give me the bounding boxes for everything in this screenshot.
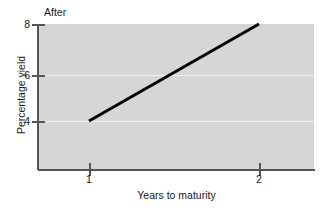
x-axis-spine [38, 169, 315, 171]
gridline-y-4 [38, 121, 314, 122]
x-axis-label: Years to maturity [38, 189, 315, 201]
y-axis-spine [37, 24, 39, 170]
x-tick-label-1: 1 [74, 174, 104, 185]
y-tick-mark-8 [32, 24, 45, 26]
chart-figure: After 8 6 4 1 2 Percentage yield Years t… [0, 0, 331, 210]
plot-area [38, 24, 314, 169]
y-axis-label: Percentage yield [15, 30, 27, 160]
y-tick-label-8: 8 [0, 19, 30, 30]
y-tick-mark-6 [32, 75, 45, 77]
x-tick-label-2: 2 [244, 174, 274, 185]
gridline-y-6 [38, 75, 314, 76]
chart-title: After [44, 6, 66, 18]
y-tick-mark-4 [32, 121, 45, 123]
